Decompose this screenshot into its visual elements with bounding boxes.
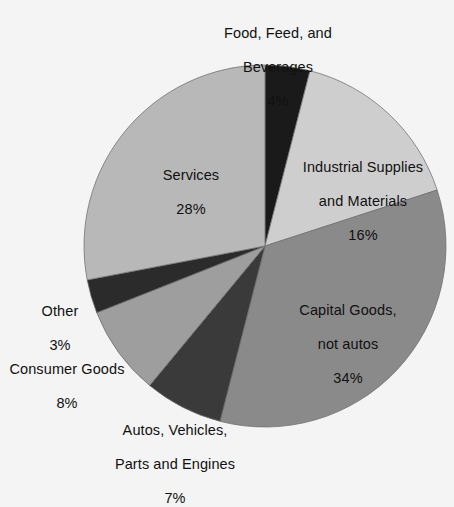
pie-slice-group: [84, 65, 446, 427]
pie-slice: [84, 65, 265, 280]
pie-label-percent: 7%: [80, 490, 270, 507]
